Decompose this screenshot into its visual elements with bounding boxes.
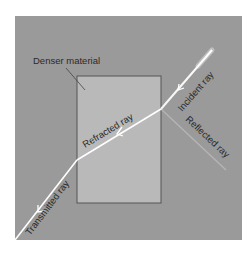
refraction-diagram: Denser material Incident ray Reflected r… xyxy=(0,0,252,260)
label-denser-material: Denser material xyxy=(33,55,100,66)
